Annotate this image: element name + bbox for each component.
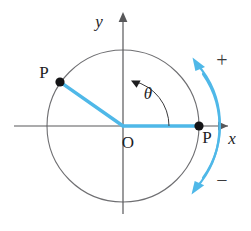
point-p-initial-label: P — [202, 128, 211, 147]
figure-canvas: y x O P P θ + − — [0, 0, 251, 231]
point-p-terminal-label: P — [39, 63, 48, 82]
point-p-terminal-dot — [55, 77, 64, 86]
angle-arc-arrowhead — [131, 81, 141, 88]
angle-theta-label: θ — [144, 84, 152, 103]
x-axis-label: x — [227, 129, 236, 148]
origin-label: O — [122, 133, 134, 152]
positive-direction-arrowhead — [193, 58, 206, 71]
terminal-side-radius — [61, 82, 123, 126]
y-axis-label: y — [93, 12, 103, 31]
unit-circle-diagram: y x O P P θ + − — [0, 0, 251, 231]
y-axis-arrowhead — [119, 12, 128, 22]
negative-direction-arrowhead — [192, 181, 205, 194]
negative-sign-label: − — [216, 169, 227, 191]
positive-sign-label: + — [216, 49, 227, 71]
